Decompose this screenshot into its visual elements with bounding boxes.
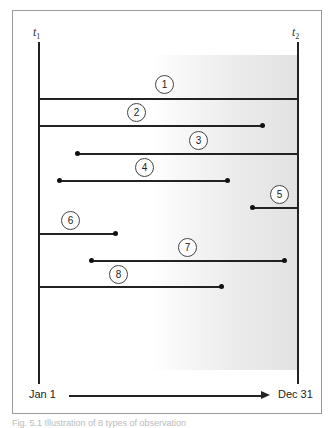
segment-5-marker: 5 bbox=[270, 185, 289, 204]
segment-2-end-dot bbox=[260, 123, 265, 128]
figure-caption: Fig. 5.1 Illustration of 8 types of obse… bbox=[12, 418, 186, 428]
segment-5-start-dot bbox=[250, 205, 255, 210]
segment-6-line bbox=[39, 233, 115, 235]
time-arrow-line bbox=[69, 395, 262, 397]
segment-4-end-dot bbox=[225, 178, 230, 183]
axis-end-label: Dec 31 bbox=[278, 388, 313, 400]
segment-7-end-dot bbox=[282, 258, 287, 263]
segment-3-start-dot bbox=[75, 151, 80, 156]
segment-6-end-dot bbox=[113, 231, 118, 236]
segment-5-line bbox=[253, 207, 298, 209]
t1-line bbox=[38, 42, 40, 384]
t2-label: t2 bbox=[292, 25, 299, 41]
segment-1-marker: 1 bbox=[155, 75, 174, 94]
segment-8-end-dot bbox=[219, 284, 224, 289]
segment-7-start-dot bbox=[89, 258, 94, 263]
segment-2-line bbox=[39, 125, 263, 127]
shaded-region bbox=[150, 55, 298, 370]
segment-3-line bbox=[78, 153, 298, 155]
segment-2-marker: 2 bbox=[127, 103, 146, 122]
segment-4-start-dot bbox=[57, 178, 62, 183]
axis-start-label: Jan 1 bbox=[29, 388, 56, 400]
segment-4-line bbox=[60, 180, 228, 182]
arrow-right-icon bbox=[261, 391, 270, 399]
segment-7-line bbox=[91, 260, 284, 262]
segment-7-marker: 7 bbox=[178, 238, 197, 257]
segment-8-marker: 8 bbox=[109, 265, 128, 284]
segment-8-line bbox=[39, 286, 221, 288]
segment-6-marker: 6 bbox=[61, 211, 80, 230]
segment-1-line bbox=[39, 98, 298, 100]
t2-line bbox=[297, 42, 299, 384]
segment-3-marker: 3 bbox=[189, 131, 208, 150]
t1-label: t1 bbox=[33, 25, 40, 41]
segment-4-marker: 4 bbox=[135, 158, 154, 177]
